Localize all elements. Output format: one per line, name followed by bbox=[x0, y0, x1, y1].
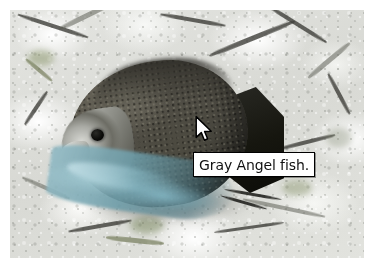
tooltip: Gray Angel fish. bbox=[193, 152, 315, 177]
reef-photo[interactable] bbox=[10, 10, 364, 258]
screenshot-canvas: Gray Angel fish. bbox=[0, 0, 377, 272]
algae-patch bbox=[28, 50, 54, 66]
algae-patch bbox=[326, 128, 352, 148]
tooltip-label: Gray Angel fish. bbox=[199, 158, 309, 172]
algae-patch bbox=[282, 180, 312, 196]
fish-eye bbox=[91, 129, 104, 141]
gray-angelfish bbox=[62, 57, 258, 209]
